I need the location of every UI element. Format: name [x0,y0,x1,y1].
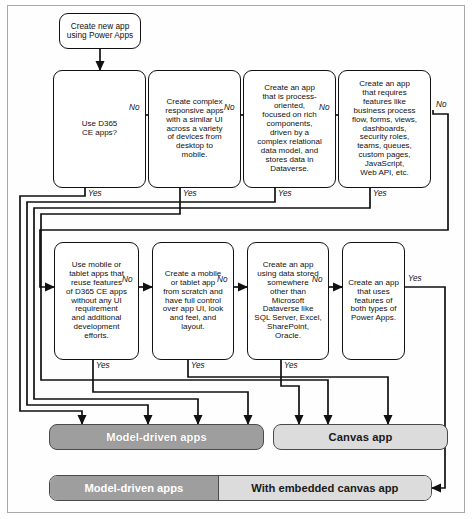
result-canvas-app[interactable]: Canvas app [273,424,448,450]
node-use-d365-ce-apps-label: Use D365 CE apps? [58,120,141,138]
node-requires-dataverse-features[interactable]: Create an app that requires features lik… [338,70,431,188]
edge-label-d4-yes: Yes [373,189,387,198]
flowchart-canvas: Create new app using Power Apps Use D365… [0,0,473,519]
node-mobile-from-scratch[interactable]: Create a mobile or tablet app from scrat… [152,242,234,360]
edge-label-d6-yes: Yes [191,361,205,370]
edge-label-d7-yes: Yes [284,361,298,370]
edge-label-d7-d8-no: No [312,275,322,284]
edge-label-d1-d2-no: No [129,103,139,112]
result-bottom-embedded-canvas[interactable]: With embedded canvas app [218,476,431,500]
result-model-driven-apps[interactable]: Model-driven apps [49,424,264,450]
node-requires-dataverse-features-label: Create an app that requires features lik… [343,80,426,178]
edge-label-d2-yes: Yes [183,189,197,198]
node-start-label: Create new app using Power Apps [64,22,136,41]
node-both-app-types[interactable]: Create an app that uses features of both… [342,242,405,360]
node-use-d365-ce-apps[interactable]: Use D365 CE apps? [53,70,146,188]
edge-label-d5-yes: Yes [96,361,110,370]
edge-label-d8-yes: Yes [408,274,422,283]
edge-label-d1-yes: Yes [88,189,102,198]
node-complex-responsive-apps[interactable]: Create complex responsive apps with a si… [148,70,241,188]
result-bottom-embedded-canvas-label: With embedded canvas app [251,482,398,494]
result-bottom-model-driven-label: Model-driven apps [84,482,183,494]
edge-label-d3-d4-no: No [319,103,329,112]
node-process-oriented-app[interactable]: Create an app that is process- oriented,… [243,70,336,188]
result-model-driven-apps-label: Model-driven apps [106,431,207,443]
node-reuse-d365-mobile-apps[interactable]: Use mobile or tablet apps that reuse fea… [54,242,139,360]
edge-label-d6-d7-no: No [217,275,227,284]
edge-label-d3-yes: Yes [278,189,292,198]
node-start[interactable]: Create new app using Power Apps [59,13,141,49]
node-external-data-source-label: Create an app using data stored somewher… [252,261,324,342]
edge-label-d5-d6-no: No [122,275,132,284]
node-reuse-d365-mobile-apps-label: Use mobile or tablet apps that reuse fea… [59,261,134,342]
result-model-driven-with-embedded-canvas[interactable]: Model-driven apps With embedded canvas a… [49,475,432,501]
result-bottom-model-driven[interactable]: Model-driven apps [50,476,218,500]
node-both-app-types-label: Create an app that uses features of both… [347,279,400,324]
edge-label-d2-d3-no: No [224,103,234,112]
edge-label-d4-d5-no: No [436,100,446,109]
node-external-data-source[interactable]: Create an app using data stored somewher… [247,242,329,360]
result-canvas-app-label: Canvas app [329,431,393,443]
node-process-oriented-app-label: Create an app that is process- oriented,… [248,84,331,174]
